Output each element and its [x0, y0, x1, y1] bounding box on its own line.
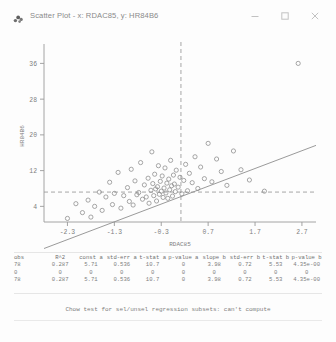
scatter-point	[162, 186, 166, 190]
scatter-point	[127, 199, 131, 203]
scatter-plot-svg: -2.3-1.3-0.30.71.72.7412202836RDAC85HR84…	[14, 36, 322, 258]
scatter-point	[163, 166, 167, 170]
scatter-point	[169, 158, 173, 162]
stats-cell: 0.287	[45, 276, 76, 283]
stats-cell: 10.7	[137, 261, 168, 268]
stats-row: 780.2875.710.53610.703.980.725.534.35e-0…	[14, 276, 322, 283]
scatter-plot-area[interactable]: -2.3-1.3-0.30.71.72.7412202836RDAC85HR84…	[14, 36, 322, 258]
stats-header-cell: obs	[14, 254, 45, 261]
stats-cell: 0.536	[106, 261, 137, 268]
scatter-point	[164, 191, 168, 195]
stats-cell: 0	[230, 269, 261, 276]
stats-cell: 0	[168, 269, 199, 276]
scatter-point	[142, 183, 146, 187]
x-tick-label: -2.3	[60, 229, 76, 236]
scatter-point	[131, 203, 135, 207]
scatter-plot-icon	[13, 10, 24, 21]
x-axis-label: RDAC85	[169, 241, 191, 248]
scatter-point	[171, 173, 175, 177]
scatter-point	[193, 155, 197, 159]
scatter-point	[160, 174, 164, 178]
stats-cell: 0.72	[230, 261, 261, 268]
stats-header-row: obsR^2const astd-err at-stat ap-value as…	[14, 254, 322, 261]
scatter-point	[180, 192, 184, 196]
stats-cell: 0	[106, 269, 137, 276]
scatter-point	[176, 185, 180, 189]
stats-header-cell: t-stat b	[260, 254, 291, 261]
scatter-point	[153, 172, 157, 176]
scatter-point	[156, 164, 160, 168]
regression-stats-table: obsR^2const astd-err at-stat ap-value as…	[14, 254, 322, 283]
stats-cell: 5.53	[260, 261, 291, 268]
stats-cell: 3.98	[199, 276, 230, 283]
stats-cell: 10.7	[137, 276, 168, 283]
scatter-point	[122, 194, 126, 198]
stats-cell: 4.35e-00	[291, 261, 322, 268]
scatter-point	[104, 195, 108, 199]
scatter-point	[157, 192, 161, 196]
scatter-point	[206, 141, 210, 145]
scatter-point	[247, 178, 251, 182]
stats-cell: 78	[14, 261, 45, 268]
scatter-point	[165, 181, 169, 185]
stats-cell: 0	[168, 276, 199, 283]
stats-cell: 0	[168, 261, 199, 268]
maximize-button[interactable]	[270, 9, 300, 23]
stats-cell: 5.53	[260, 276, 291, 283]
minimize-button[interactable]	[240, 9, 270, 23]
y-tick-label: 28	[29, 97, 37, 104]
regression-stats-panel: obsR^2const astd-err at-stat ap-value as…	[14, 254, 322, 302]
stats-cell: 0	[45, 269, 76, 276]
scatter-point	[167, 177, 171, 181]
title-bar[interactable]: Scatter Plot - x: RDAC85, y: HR84B6	[0, 0, 336, 30]
close-icon	[310, 11, 320, 21]
y-tick-label: 12	[29, 168, 37, 175]
scatter-point	[231, 149, 235, 153]
scatter-point	[225, 183, 229, 187]
scatter-point	[154, 199, 158, 203]
y-tick-label: 36	[29, 61, 37, 68]
y-tick-label: 4	[33, 204, 37, 211]
scatter-point	[100, 208, 104, 212]
x-tick-label: 2.7	[296, 229, 308, 236]
stats-row: 0000000000	[14, 269, 322, 276]
scatter-point	[296, 61, 300, 65]
x-tick-label: 1.7	[249, 229, 261, 236]
scatter-point	[151, 181, 155, 185]
scatter-point	[170, 194, 174, 198]
x-tick-label: -1.3	[107, 229, 123, 236]
stats-cell: 0.72	[230, 276, 261, 283]
scatter-point	[161, 195, 165, 199]
scatter-point	[182, 178, 186, 182]
stats-cell: 0	[291, 269, 322, 276]
scatter-point	[74, 202, 78, 206]
stats-cell: 0	[14, 269, 45, 276]
scatter-point	[262, 189, 266, 193]
scatter-point	[86, 198, 90, 202]
scatter-point	[144, 195, 148, 199]
stats-cell: 0	[76, 269, 107, 276]
scatter-point	[93, 204, 97, 208]
scatter-point	[202, 177, 206, 181]
chow-test-message: Chow test for sel/unsel regression subse…	[0, 306, 336, 313]
scatter-point	[125, 186, 129, 190]
stats-cell: 78	[14, 276, 45, 283]
close-button[interactable]	[300, 9, 330, 23]
stats-header-cell: R^2	[45, 254, 76, 261]
stats-divider-top	[14, 252, 322, 253]
stats-cell: 0.536	[106, 276, 137, 283]
stats-cell: 5.71	[76, 276, 107, 283]
stats-cell: 0	[137, 269, 168, 276]
scatter-point	[190, 181, 194, 185]
scatter-point	[129, 167, 133, 171]
scatter-point	[133, 179, 137, 183]
scatter-point	[168, 188, 172, 192]
scatter-point	[187, 171, 191, 175]
scatter-point	[219, 169, 223, 173]
scatter-point	[116, 170, 120, 174]
stats-cell: 0	[199, 269, 230, 276]
stats-header-cell: p-value b	[291, 254, 322, 261]
scatter-point	[152, 194, 156, 198]
y-axis-label: HR84B6	[19, 125, 26, 147]
scatter-point	[110, 202, 114, 206]
